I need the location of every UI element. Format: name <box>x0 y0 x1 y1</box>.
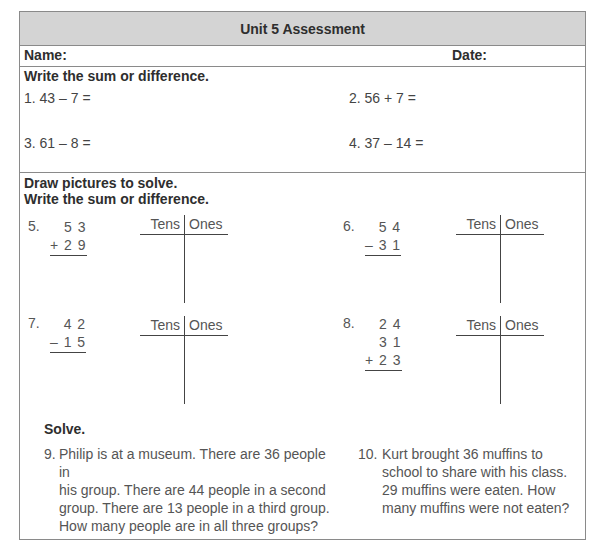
equation-row: 5 3 <box>50 218 87 236</box>
tens-ones-chart-5: Tens Ones <box>140 215 228 303</box>
answer-line <box>365 370 402 371</box>
section-write-sum: Write the sum or difference. 1. 43 – 7 =… <box>20 67 585 173</box>
name-label: Name: <box>24 47 67 63</box>
answer-line <box>365 255 401 256</box>
equation-row: – 1 5 <box>50 333 86 351</box>
section3-instruction: Solve. <box>44 421 85 437</box>
word-problem-9: 9. Philip is at a museum. There are 36 p… <box>44 445 334 535</box>
problem-4: 4. 37 – 14 = <box>349 135 423 151</box>
equation-row: 2 4 <box>365 315 402 333</box>
chart-vertical-line <box>184 215 185 303</box>
tens-label: Tens <box>150 317 180 333</box>
chart-vertical-line <box>500 215 501 303</box>
equation-row: + 2 3 <box>365 351 402 369</box>
text-line: group. There are 13 people in a third gr… <box>59 499 334 517</box>
tens-ones-chart-7: Tens Ones <box>140 316 228 404</box>
equation-row: 5 4 <box>365 218 401 236</box>
equation-row: 4 2 <box>50 315 86 333</box>
section2-instruction-1: Draw pictures to solve. <box>24 175 177 191</box>
ones-label: Ones <box>189 216 222 232</box>
problem-3: 3. 61 – 8 = <box>24 135 91 151</box>
text-line: Philip is at a museum. There are 36 peop… <box>59 445 334 481</box>
text-line: many muffins were not eaten? <box>382 499 578 517</box>
word-problem-text: Kurt brought 36 muffins to school to sha… <box>358 445 578 517</box>
answer-line <box>50 352 86 353</box>
tens-label: Tens <box>466 317 496 333</box>
text-line: his group. There are 44 people in a seco… <box>59 481 334 499</box>
answer-line <box>50 255 87 256</box>
ones-label: Ones <box>505 216 538 232</box>
problem-number: 9. <box>44 445 56 463</box>
tens-label: Tens <box>466 216 496 232</box>
vertical-equation: 5 4 – 3 1 <box>365 218 401 256</box>
text-line: school to share with his class. <box>382 463 578 481</box>
chart-vertical-line <box>500 316 501 404</box>
word-problem-text: Philip is at a museum. There are 36 peop… <box>44 445 334 535</box>
problem-2: 2. 56 + 7 = <box>349 90 416 106</box>
page-title: Unit 5 Assessment <box>240 21 365 37</box>
text-line: Kurt brought 36 muffins to <box>382 445 578 463</box>
problem-number: 5. <box>28 218 40 234</box>
tens-label: Tens <box>150 216 180 232</box>
date-label: Date: <box>452 47 487 63</box>
ones-label: Ones <box>505 317 538 333</box>
vertical-equation: 5 3 + 2 9 <box>50 218 87 256</box>
equation-row: – 3 1 <box>365 236 401 254</box>
section2-instruction-2: Write the sum or difference. <box>24 191 209 207</box>
problem-number: 6. <box>343 218 355 234</box>
assessment-sheet: Unit 5 Assessment Name: Date: Write the … <box>19 11 586 540</box>
tens-ones-chart-6: Tens Ones <box>456 215 544 303</box>
vertical-equation: 4 2 – 1 5 <box>50 315 86 353</box>
equation-row: 3 1 <box>365 333 402 351</box>
chart-vertical-line <box>184 316 185 404</box>
equation-row: + 2 9 <box>50 236 87 254</box>
problem-number: 7. <box>28 315 40 331</box>
problem-number: 8. <box>343 315 355 331</box>
word-problem-10: 10. Kurt brought 36 muffins to school to… <box>358 445 578 517</box>
text-line: How many people are in all three groups? <box>59 517 334 535</box>
tens-ones-chart-8: Tens Ones <box>456 316 544 404</box>
problem-1: 1. 43 – 7 = <box>24 90 91 106</box>
problem-number: 10. <box>358 445 377 463</box>
vertical-equation: 2 4 3 1 + 2 3 <box>365 315 402 371</box>
sheet-header: Unit 5 Assessment <box>20 12 585 46</box>
text-line: 29 muffins were eaten. How <box>382 481 578 499</box>
ones-label: Ones <box>189 317 222 333</box>
name-date-row: Name: Date: <box>20 45 585 67</box>
section1-instruction: Write the sum or difference. <box>24 68 209 84</box>
